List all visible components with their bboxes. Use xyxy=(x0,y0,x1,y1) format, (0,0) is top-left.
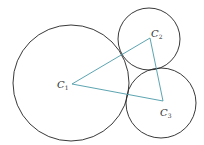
center-triangle xyxy=(72,38,163,101)
label-c1: C1 xyxy=(57,79,68,91)
label-c3: C3 xyxy=(160,107,172,119)
label-c2: C2 xyxy=(151,28,163,40)
circle-c3 xyxy=(126,68,196,138)
circles-group xyxy=(13,8,196,141)
circle-c1 xyxy=(13,25,129,141)
labels-group: C1 C2 C3 xyxy=(57,28,172,119)
tangent-circles-diagram: C1 C2 C3 xyxy=(0,0,204,145)
